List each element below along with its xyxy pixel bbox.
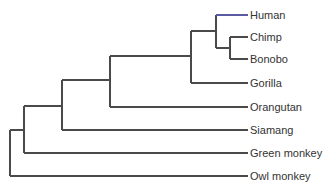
- leaf-label-owl-monkey: Owl monkey: [250, 170, 311, 182]
- leaf-label-human: Human: [250, 9, 285, 21]
- leaf-label-green-monkey: Green monkey: [250, 147, 322, 159]
- phylogenetic-tree: [0, 0, 327, 190]
- leaf-label-gorilla: Gorilla: [250, 77, 282, 89]
- leaf-label-bonobo: Bonobo: [250, 53, 288, 65]
- leaf-label-orangutan: Orangutan: [250, 101, 302, 113]
- leaf-label-chimp: Chimp: [250, 31, 282, 43]
- leaf-label-siamang: Siamang: [250, 124, 293, 136]
